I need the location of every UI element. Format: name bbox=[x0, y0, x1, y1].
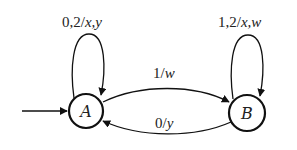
loop-B-label: 1,2/x,w bbox=[218, 14, 261, 30]
state-diagram: A B 0,2/x,y 1,2/x,w 1/w 0/y bbox=[0, 0, 297, 150]
edge-B-to-A-output: y bbox=[165, 115, 174, 131]
self-loop-A bbox=[72, 34, 104, 98]
edge-A-to-B-input: 1/ bbox=[153, 65, 166, 81]
loop-A-output: x,y bbox=[84, 14, 102, 30]
edge-A-to-B bbox=[103, 89, 229, 103]
state-A[interactable]: A bbox=[69, 94, 103, 128]
edge-B-to-A-label: 0/y bbox=[155, 115, 174, 131]
edge-A-to-B-label: 1/w bbox=[153, 65, 175, 81]
loop-A-label: 0,2/x,y bbox=[62, 14, 102, 30]
loop-A-input: 0,2/ bbox=[62, 14, 86, 30]
edge-A-to-B-output: w bbox=[165, 65, 175, 81]
state-A-label: A bbox=[78, 102, 92, 121]
self-loop-B bbox=[231, 35, 263, 99]
loop-B-input: 1,2/ bbox=[218, 14, 242, 30]
state-B[interactable]: B bbox=[229, 95, 265, 131]
loop-B-output: x,w bbox=[240, 14, 261, 30]
state-B-label: B bbox=[240, 104, 253, 123]
edge-B-to-A-input: 0/ bbox=[155, 115, 168, 131]
